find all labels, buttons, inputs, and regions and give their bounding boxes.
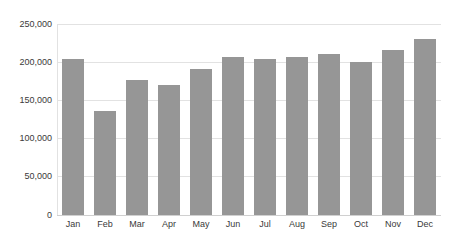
bar-jul xyxy=(254,59,276,215)
x-axis-tick-label: Nov xyxy=(385,218,401,230)
bar-may xyxy=(190,69,212,214)
bar-aug xyxy=(286,57,308,214)
y-axis-tick-label: 250,000 xyxy=(0,19,52,28)
bar-mar xyxy=(126,80,148,214)
x-axis-tick-label: Feb xyxy=(97,218,113,230)
bar-jan xyxy=(62,59,84,215)
y-axis-tick-label: 200,000 xyxy=(0,57,52,66)
x-axis-tick-label: Jul xyxy=(259,218,271,230)
x-axis-tick-label: Dec xyxy=(417,218,433,230)
x-axis-tick-label: Mar xyxy=(129,218,145,230)
bar-oct xyxy=(350,62,372,214)
y-axis-labels: 050,000100,000150,000200,000250,000 xyxy=(0,0,52,243)
bar-sep xyxy=(318,54,340,214)
gridline xyxy=(57,215,441,216)
x-axis-tick-label: Oct xyxy=(354,218,368,230)
bar-nov xyxy=(382,50,404,214)
bar-apr xyxy=(158,85,180,215)
y-axis-tick-label: 150,000 xyxy=(0,95,52,104)
y-axis-tick-label: 50,000 xyxy=(0,172,52,181)
bars xyxy=(57,24,441,215)
bar-jun xyxy=(222,57,244,214)
x-axis-tick-label: Apr xyxy=(162,218,176,230)
bar-feb xyxy=(94,111,116,215)
y-axis-tick-label: 0 xyxy=(0,210,52,219)
bar-dec xyxy=(414,39,436,215)
x-axis-tick-label: Jan xyxy=(66,218,81,230)
x-axis-tick-label: May xyxy=(192,218,209,230)
x-axis-tick-label: Sep xyxy=(321,218,337,230)
x-axis-tick-label: Aug xyxy=(289,218,305,230)
bar-chart: 050,000100,000150,000200,000250,000 JanF… xyxy=(0,0,454,243)
x-axis-tick-label: Jun xyxy=(226,218,241,230)
x-axis-labels: JanFebMarAprMayJunJulAugSepOctNovDec xyxy=(57,218,441,236)
plot-area xyxy=(57,24,441,215)
y-axis-tick-label: 100,000 xyxy=(0,134,52,143)
